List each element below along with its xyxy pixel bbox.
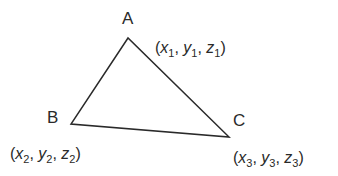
close-paren: ) [75,145,80,162]
vertex-label-c: C [233,112,245,129]
sep: , [174,39,183,56]
sep: , [252,149,261,166]
close-paren: ) [220,39,225,56]
vertex-label-a: A [122,10,133,27]
coord-label-b: (x2, y2, z2) [10,146,81,162]
sep: , [29,145,38,162]
close-paren: ) [298,149,303,166]
coord-label-a: (x1, y1, z1) [155,40,226,56]
vertex-label-b: B [47,109,58,126]
coord-label-c: (x3, y3, z3) [233,150,304,166]
